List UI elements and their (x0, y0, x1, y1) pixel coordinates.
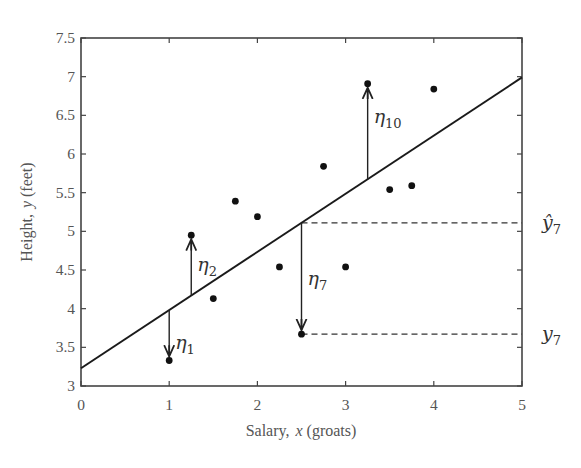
data-point (166, 357, 173, 364)
y-tick-label: 7.5 (56, 29, 76, 46)
reference-lines (302, 223, 523, 334)
y-axis-label: Height,y(feet) (18, 162, 36, 261)
y-tick-label: 5.5 (56, 184, 76, 201)
y7-label: y7 (541, 322, 561, 348)
data-point (188, 232, 195, 239)
data-point (254, 213, 261, 220)
residual-arrows (169, 88, 367, 357)
y-tick-label: 6 (67, 145, 75, 162)
data-point (320, 163, 327, 170)
data-point (386, 186, 393, 193)
x-tick-label: 3 (342, 396, 350, 413)
y-tick-label: 4.5 (56, 261, 76, 278)
data-point (342, 264, 349, 271)
x-tick-label: 4 (430, 396, 438, 413)
y-tick-label: 6.5 (56, 106, 76, 123)
regression-chart: 01234533.544.555.566.577.5 η1η2η7η10ŷ7y7… (0, 0, 581, 468)
x-axis-label: Salary,x(groats) (246, 422, 357, 440)
x-tick-label: 1 (165, 396, 173, 413)
residual-label-2: η2 (197, 253, 217, 279)
data-point (276, 264, 283, 271)
residual-label-1: η1 (175, 331, 195, 357)
data-point (430, 86, 437, 93)
data-point (364, 80, 371, 87)
y-tick-label: 4 (67, 300, 75, 317)
y-tick-label: 3.5 (56, 338, 76, 355)
data-point (408, 182, 415, 189)
ticks: 01234533.544.555.566.577.5 (56, 29, 527, 413)
x-tick-label: 0 (77, 396, 85, 413)
x-tick-label: 2 (254, 396, 262, 413)
x-tick-label: 5 (518, 396, 526, 413)
residual-label-10: η10 (374, 105, 402, 131)
residual-label-7: η7 (308, 267, 328, 293)
yhat7-label: ŷ7 (541, 211, 561, 237)
y-tick-label: 7 (67, 68, 75, 85)
y-tick-label: 3 (67, 377, 75, 394)
data-point (298, 331, 305, 338)
data-point (210, 295, 217, 302)
data-point (232, 198, 239, 205)
y-tick-label: 5 (67, 222, 75, 239)
